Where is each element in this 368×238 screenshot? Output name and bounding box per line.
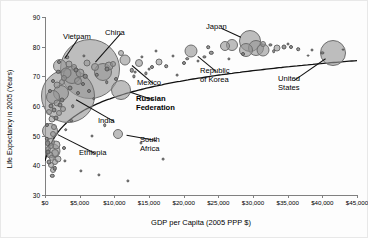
y-tick-mark [42, 76, 45, 77]
data-bubble[interactable] [241, 52, 245, 56]
data-bubble[interactable] [64, 159, 67, 162]
data-bubble[interactable] [52, 159, 58, 165]
data-bubble[interactable] [184, 45, 197, 58]
x-tick-mark [184, 195, 185, 198]
x-tick-mark [114, 195, 115, 198]
data-bubble[interactable] [119, 55, 130, 66]
data-bubble[interactable] [61, 75, 67, 81]
data-bubble[interactable] [342, 48, 345, 51]
x-tick-mark [357, 195, 358, 198]
x-tick-label: $30,000 [242, 199, 264, 206]
x-tick-label: $0 [42, 199, 49, 206]
data-bubble[interactable] [286, 42, 289, 45]
data-bubble[interactable] [70, 119, 74, 123]
y-tick-label: 80 [33, 43, 40, 50]
data-bubble[interactable] [182, 61, 186, 65]
data-bubble[interactable] [92, 97, 96, 101]
data-bubble[interactable] [296, 47, 300, 51]
data-bubble[interactable] [272, 49, 276, 53]
data-bubble[interactable] [118, 50, 124, 56]
data-bubble[interactable] [105, 80, 109, 84]
plot-area: 30405060708090 $0$5,000$10,000$15,000$20… [45, 17, 357, 195]
data-bubble[interactable] [87, 89, 91, 93]
data-bubble[interactable] [83, 59, 90, 66]
data-bubble[interactable] [161, 158, 164, 161]
data-bubble[interactable] [185, 57, 189, 61]
data-bubble[interactable] [227, 57, 230, 60]
data-bubble[interactable] [165, 64, 169, 68]
data-bubble[interactable] [59, 98, 64, 103]
data-bubble[interactable] [150, 65, 154, 69]
data-bubble[interactable] [48, 89, 52, 93]
data-bubble[interactable] [310, 48, 313, 51]
data-bubble[interactable] [50, 131, 56, 137]
data-bubble[interactable] [60, 106, 66, 112]
data-bubble[interactable] [148, 68, 151, 71]
data-bubble[interactable] [97, 173, 100, 176]
data-bubble[interactable] [269, 44, 272, 47]
y-tick-label: 70 [33, 73, 40, 80]
data-bubble[interactable] [220, 41, 230, 51]
data-bubble[interactable] [67, 86, 72, 91]
data-bubble[interactable] [289, 45, 293, 49]
x-tick-mark [80, 195, 81, 198]
figure-container: Life Expectancy in 2005 (Years) 30405060… [0, 0, 368, 238]
y-axis-title: Life Expectancy in 2005 (Years) [6, 49, 13, 189]
data-bubble[interactable] [52, 108, 57, 113]
data-bubble[interactable] [132, 75, 135, 78]
data-bubble[interactable] [57, 102, 62, 107]
data-bubble[interactable] [91, 63, 99, 71]
data-bubble[interactable] [71, 104, 75, 108]
data-bubble[interactable] [51, 124, 57, 130]
data-bubble[interactable] [45, 140, 51, 146]
data-bubble[interactable] [140, 55, 143, 58]
data-bubble[interactable] [91, 134, 94, 137]
data-bubble[interactable] [53, 166, 57, 170]
data-bubble[interactable] [203, 55, 206, 58]
data-bubble[interactable] [110, 61, 116, 67]
data-bubble[interactable] [320, 40, 346, 66]
data-bubble[interactable] [307, 54, 310, 57]
x-tick-label: $5,000 [70, 199, 89, 206]
data-bubble[interactable] [46, 160, 51, 165]
data-bubble[interactable] [134, 70, 137, 73]
data-bubble[interactable] [57, 60, 61, 64]
data-bubble[interactable] [172, 54, 175, 57]
data-bubble[interactable] [50, 174, 54, 178]
x-tick-mark [288, 195, 289, 198]
data-bubble[interactable] [206, 45, 210, 49]
x-tick-label: $45,000 [346, 199, 368, 206]
data-bubble[interactable] [105, 66, 110, 71]
data-bubble[interactable] [209, 50, 213, 54]
data-bubble[interactable] [76, 91, 80, 95]
y-tick-mark [42, 165, 45, 166]
data-bubble[interactable] [154, 50, 157, 53]
data-bubble[interactable] [73, 68, 78, 73]
data-bubble[interactable] [260, 41, 266, 47]
data-bubble[interactable] [51, 79, 55, 83]
annotation-label-china: China [105, 29, 125, 38]
data-bubble[interactable] [81, 82, 85, 86]
data-bubble[interactable] [64, 128, 68, 132]
data-bubble[interactable] [62, 146, 66, 150]
annotation-label-russian-federation: Russian Federation [136, 95, 175, 112]
data-bubble[interactable] [111, 80, 131, 100]
data-bubble[interactable] [45, 123, 49, 127]
data-bubble[interactable] [282, 45, 287, 50]
data-bubble[interactable] [175, 73, 178, 76]
data-bubble[interactable] [135, 59, 143, 67]
data-bubble[interactable] [113, 129, 123, 139]
x-tick-label: $15,000 [138, 199, 160, 206]
y-tick-label: 50 [33, 132, 40, 139]
data-bubble[interactable] [196, 59, 199, 62]
data-bubble[interactable] [114, 77, 118, 81]
y-tick-mark [42, 17, 45, 18]
data-bubble[interactable] [46, 149, 51, 154]
data-bubble[interactable] [54, 115, 59, 120]
x-axis-line [45, 195, 358, 196]
data-bubble[interactable] [156, 58, 163, 65]
x-tick-label: $10,000 [103, 199, 125, 206]
data-bubble[interactable] [79, 170, 82, 173]
x-tick-mark [149, 195, 150, 198]
data-bubble[interactable] [127, 179, 130, 182]
